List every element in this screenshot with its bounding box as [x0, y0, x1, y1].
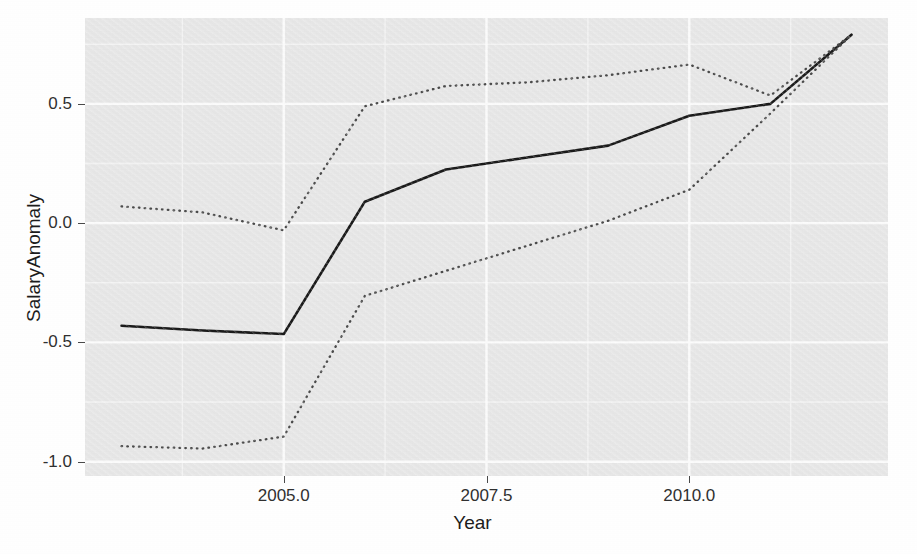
chart-root: 0.50.0-0.5-1.0 SalaryAnomaly 2005.02007.… — [0, 0, 917, 554]
x-tick-mark — [284, 476, 285, 483]
x-tick-mark — [689, 476, 690, 483]
y-tick-mark — [78, 104, 85, 105]
x-tick-label: 2007.5 — [461, 486, 513, 506]
y-tick-mark — [78, 223, 85, 224]
y-tick-label: 0.5 — [10, 94, 72, 114]
x-tick-label: 2010.0 — [663, 486, 715, 506]
x-tick-label: 2005.0 — [258, 486, 310, 506]
y-tick-mark — [78, 462, 85, 463]
plot-canvas — [85, 18, 888, 476]
plot-panel — [85, 18, 888, 476]
x-axis-title: Year — [0, 512, 917, 534]
x-tick-mark — [487, 476, 488, 483]
x-axis-title-text: Year — [453, 512, 491, 534]
y-tick-mark — [78, 342, 85, 343]
y-axis-title: SalaryAnomaly — [23, 158, 45, 358]
y-tick-label: -1.0 — [10, 452, 72, 472]
